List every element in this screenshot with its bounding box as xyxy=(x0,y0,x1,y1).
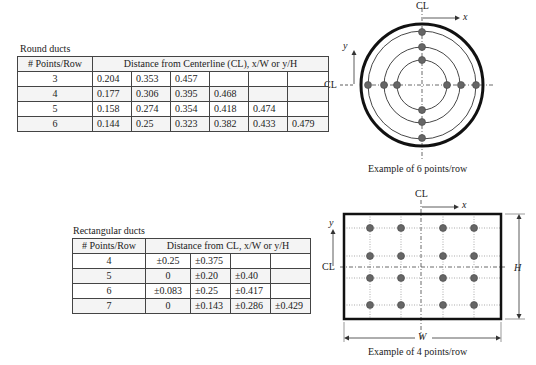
round-caption: Example of 6 points/row xyxy=(368,163,467,174)
col-header-points: # Points/Row xyxy=(18,57,93,72)
rect-y-label: y xyxy=(329,217,333,228)
table-row: 3 0.204 0.353 0.457 xyxy=(18,72,329,87)
table-row: 4 ±0.25 ±0.375 xyxy=(73,254,311,269)
rect-cl-label: CL xyxy=(415,188,428,199)
rect-table: # Points/Row Distance from CL, x/W or y/… xyxy=(72,238,311,314)
table-row: 5 0 ±0.20 ±0.40 xyxy=(73,269,311,284)
col-header-points: # Points/Row xyxy=(73,239,146,254)
table-row: 6 0.144 0.25 0.323 0.382 0.433 0.479 xyxy=(18,117,329,132)
round-cl-label: CL xyxy=(416,0,429,11)
table-row: 5 0.158 0.274 0.354 0.418 0.474 xyxy=(18,102,329,117)
round-duct-figure xyxy=(340,8,495,160)
round-x-label: x xyxy=(463,11,467,22)
rect-table-title: Rectangular ducts xyxy=(73,225,145,236)
col-header-distance: Distance from Centerline (CL), x/W or y/… xyxy=(93,57,329,72)
rect-h-label: H xyxy=(514,262,521,273)
rect-caption: Example of 4 points/row xyxy=(368,346,467,357)
table-row: 4 0.177 0.306 0.395 0.468 xyxy=(18,87,329,102)
round-table: # Points/Row Distance from Centerline (C… xyxy=(17,56,329,132)
rect-x-label: x xyxy=(462,199,466,210)
page: CL x y CL Example of 6 points/row CL x y… xyxy=(0,0,536,365)
table-row: 7 0 ±0.143 ±0.286 ±0.429 xyxy=(73,299,311,314)
rect-cl-side-label: CL xyxy=(322,261,335,272)
rect-duct-figure xyxy=(331,200,526,342)
round-table-title: Round ducts xyxy=(20,43,70,54)
rect-w-label: W xyxy=(418,331,426,342)
table-row: 6 ±0.083 ±0.25 ±0.417 xyxy=(73,284,311,299)
round-y-label: y xyxy=(343,40,347,51)
col-header-distance: Distance from CL, x/W or y/H xyxy=(146,239,311,254)
